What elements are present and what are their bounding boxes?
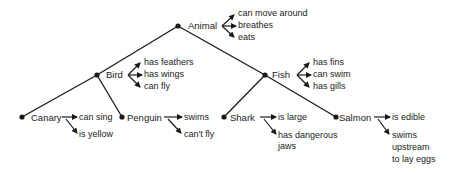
- property-label: has dangerous: [278, 130, 338, 141]
- property-label: has feathers: [144, 57, 194, 68]
- property-label: to lay eggs: [392, 154, 436, 165]
- property-label: eats: [238, 32, 255, 43]
- node-penguin: Penguin: [127, 112, 162, 123]
- property-label: upstream: [392, 142, 430, 153]
- node-salmon: Salmon: [339, 112, 371, 123]
- node-dot-penguin: [119, 114, 124, 119]
- edge-bird-penguin: [97, 75, 122, 117]
- property-label: is yellow: [79, 129, 113, 140]
- node-bird: Bird: [106, 69, 123, 80]
- edge-fish-shark: [224, 75, 265, 117]
- property-label: has wings: [144, 69, 184, 80]
- arrow-icon: [264, 119, 276, 134]
- node-dot-animal: [175, 23, 180, 28]
- property-label: swims: [392, 130, 417, 141]
- arrow-icon: [378, 119, 389, 134]
- property-label: has gills: [313, 81, 346, 92]
- node-dot-bird: [94, 72, 99, 77]
- property-label: can sing: [79, 112, 113, 123]
- arrow-icon: [297, 63, 309, 75]
- property-label: is edible: [392, 112, 425, 123]
- node-dot-canary: [19, 114, 24, 119]
- arrow-icon: [128, 63, 140, 75]
- arrow-icon: [66, 119, 77, 133]
- arrow-icon: [297, 75, 309, 87]
- property-label: has fins: [313, 57, 344, 68]
- node-dot-salmon: [333, 114, 338, 119]
- property-label: can swim: [313, 69, 351, 80]
- arrow-icon: [222, 15, 234, 26]
- node-dot-fish: [262, 72, 267, 77]
- property-label: can move around: [238, 8, 308, 19]
- node-fish: Fish: [272, 69, 290, 80]
- node-animal: Animal: [188, 20, 217, 31]
- property-label: can't fly: [184, 129, 214, 140]
- node-shark: Shark: [230, 112, 255, 123]
- property-label: can fly: [144, 81, 170, 92]
- property-label: breathes: [238, 20, 273, 31]
- property-label: jaws: [278, 141, 296, 152]
- arrow-icon: [128, 75, 140, 87]
- arrow-icon: [222, 26, 234, 37]
- node-canary: Canary: [31, 112, 62, 123]
- node-dot-shark: [221, 114, 226, 119]
- tree-edges: [0, 0, 452, 174]
- edge-bird-canary: [22, 75, 97, 117]
- property-label: is large: [278, 112, 307, 123]
- arrow-icon: [168, 119, 181, 133]
- property-label: swims: [184, 112, 209, 123]
